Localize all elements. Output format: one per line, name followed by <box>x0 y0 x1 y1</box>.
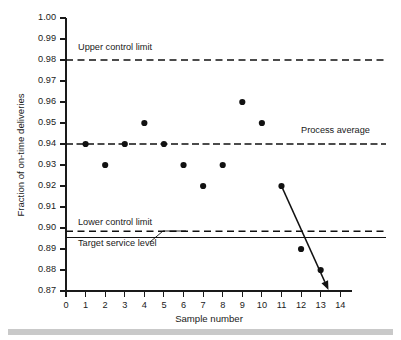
control-chart-plot: 0.870.880.890.900.910.920.930.940.950.96… <box>0 0 401 340</box>
y-tick-label: 0.94 <box>38 138 56 148</box>
x-tick-label: 8 <box>220 300 225 310</box>
axes-group <box>66 18 352 291</box>
x-tick-label: 7 <box>201 300 206 310</box>
x-tick-label: 5 <box>161 300 166 310</box>
trend-arrow-head <box>322 280 329 290</box>
y-tick-label: 0.97 <box>38 75 56 85</box>
upper-control-limit-label: Upper control limit <box>78 42 152 52</box>
data-point <box>220 162 226 168</box>
data-point <box>318 267 324 273</box>
data-point <box>239 99 245 105</box>
data-point <box>200 183 206 189</box>
x-tick-label: 9 <box>240 300 245 310</box>
process-average-label: Process average <box>301 125 370 135</box>
data-point <box>122 141 128 147</box>
lower-control-limit-label: Lower control limit <box>78 217 152 227</box>
y-tick-label: 0.95 <box>38 117 56 127</box>
y-tick-label: 0.90 <box>38 222 56 232</box>
x-tick-label: 11 <box>277 300 287 310</box>
footer-bar <box>8 329 393 335</box>
y-tick-label: 1.00 <box>38 12 56 22</box>
x-tick-label: 6 <box>181 300 186 310</box>
data-point <box>82 141 88 147</box>
data-point <box>298 246 304 252</box>
x-tick-label: 2 <box>103 300 108 310</box>
x-tick-label: 14 <box>335 300 345 310</box>
x-tick-label: 1 <box>83 300 88 310</box>
x-tick-label: 0 <box>63 300 68 310</box>
y-tick-label: 0.96 <box>38 96 56 106</box>
target-service-level-label: Target service level <box>78 238 157 248</box>
data-point <box>102 162 108 168</box>
x-tick-label: 4 <box>142 300 147 310</box>
y-axis-title: Fraction of on-time deliveries <box>15 93 26 216</box>
control-chart-figure: 0.870.880.890.900.910.920.930.940.950.96… <box>0 0 401 340</box>
data-point <box>161 141 167 147</box>
trend-arrow-line <box>281 186 324 282</box>
x-tick-label: 10 <box>257 300 267 310</box>
y-tick-label: 0.87 <box>38 285 56 295</box>
y-tick-label: 0.88 <box>38 264 56 274</box>
x-tick-label: 3 <box>122 300 127 310</box>
y-tick-label: 0.91 <box>38 201 56 211</box>
reference-lines-group <box>66 60 386 237</box>
data-point <box>259 120 265 126</box>
data-point <box>278 183 284 189</box>
y-tick-label: 0.89 <box>38 243 56 253</box>
y-tick-label: 0.99 <box>38 33 56 43</box>
data-point <box>141 120 147 126</box>
x-tick-label: 12 <box>296 300 306 310</box>
y-axis-ticks: 0.870.880.890.900.910.920.930.940.950.96… <box>38 12 66 295</box>
data-point <box>180 162 186 168</box>
y-tick-label: 0.98 <box>38 54 56 64</box>
y-tick-label: 0.92 <box>38 180 56 190</box>
x-tick-label: 13 <box>316 300 326 310</box>
x-axis-title: Sample number <box>175 313 244 324</box>
y-tick-label: 0.93 <box>38 159 56 169</box>
x-axis-ticks: 01234567891011121314 <box>63 291 345 310</box>
